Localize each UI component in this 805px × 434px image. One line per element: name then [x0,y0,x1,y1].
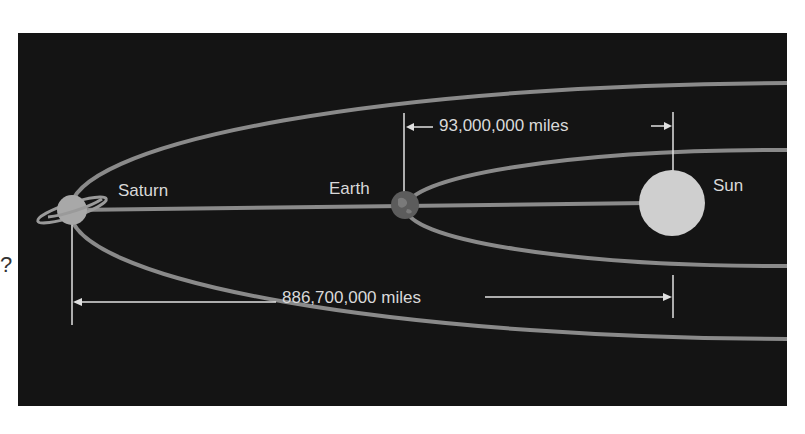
orbit-diagram [18,33,787,406]
saturn-sun-distance: 886,700,000 miles [282,288,421,308]
question-mark: ? [0,252,12,278]
saturn-label: Saturn [118,181,168,201]
alignment-line [73,203,648,210]
solar-diagram-panel: Saturn Earth Sun 93,000,000 miles 886,70… [18,33,787,406]
sun-icon [639,170,705,236]
earth-sun-distance: 93,000,000 miles [439,116,568,136]
earth-orbit [406,150,787,266]
sun-label: Sun [713,176,743,196]
earth-label: Earth [329,179,370,199]
earth-icon [391,191,419,219]
